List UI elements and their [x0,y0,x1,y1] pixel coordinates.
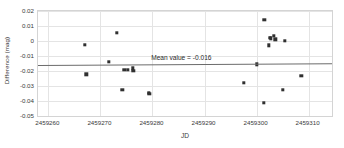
y-tick-label: -0.05 [20,112,34,119]
data-point [121,88,124,91]
x-tick-label: 2459280 [139,119,163,126]
data-point [242,81,245,84]
data-point [300,74,303,77]
y-tick-label: 0.02 [22,7,34,14]
data-point [281,88,284,91]
data-point [148,92,151,95]
data-point [115,31,118,34]
gridline-horizontal [38,86,332,87]
data-point [283,39,286,42]
data-point [83,43,86,46]
y-tick-label: -0.03 [20,82,34,89]
data-point [85,73,88,76]
x-tick-label: 2459300 [244,119,268,126]
x-tick-label: 2459310 [296,119,320,126]
scatter-chart: Difference (mag) 0.020.010-0.01-0.02-0.0… [0,0,344,148]
data-point [274,37,277,40]
mean-value-annotation: Mean value = -0.016 [151,54,211,61]
data-point [132,69,135,72]
data-point [107,60,110,63]
data-point [263,18,266,21]
data-point [126,68,129,71]
x-axis-tick-labels: 2459260245927024592802459290245930024593… [37,119,333,131]
y-tick-label: -0.04 [20,97,34,104]
y-tick-label: -0.02 [20,67,34,74]
plot-area: Mean value = -0.016 [37,10,333,117]
gridline-vertical [100,11,101,116]
x-tick-label: 2459290 [191,119,215,126]
mean-line [38,63,332,66]
y-axis-title-label: Difference (mag) [4,36,11,84]
gridline-vertical [48,11,49,116]
y-axis-title: Difference (mag) [0,0,14,120]
y-tick-label: -0.01 [20,52,34,59]
data-point [262,101,265,104]
gridline-horizontal [38,116,332,117]
x-tick-label: 2459260 [35,119,59,126]
gridline-horizontal [38,71,332,72]
y-tick-label: 0 [31,37,34,44]
gridline-horizontal [38,11,332,12]
gridline-horizontal [38,41,332,42]
gridline-horizontal [38,26,332,27]
x-axis-title: JD [37,132,333,139]
x-tick-label: 2459270 [87,119,111,126]
y-tick-label: 0.01 [22,22,34,29]
gridline-horizontal [38,101,332,102]
y-axis-tick-labels: 0.020.010-0.01-0.02-0.03-0.04-0.05 [14,10,36,117]
data-point [267,43,270,46]
